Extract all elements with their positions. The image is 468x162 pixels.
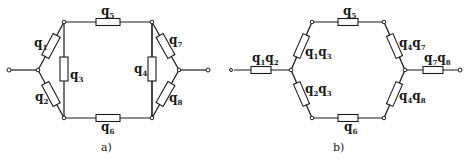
label-a-q8: q8 <box>169 91 182 107</box>
node-a-top-right <box>150 20 154 24</box>
resistor-a-q4 <box>148 57 156 81</box>
terminal-b-right <box>458 68 462 72</box>
label-b-q4q8: q4q8 <box>399 89 426 105</box>
node-b-top-left <box>310 20 314 24</box>
node-a-top-left <box>62 20 66 24</box>
label-a-q7: q7 <box>169 33 182 49</box>
diagram-a: q1 q2 q3 q4 q5 q6 q7 q8 a) <box>7 4 233 154</box>
label-b-q7q8: q7q8 <box>424 51 451 67</box>
label-b-q5: q5 <box>343 4 356 20</box>
stray-dot <box>230 69 233 72</box>
resistor-b-q7q8 <box>423 67 443 74</box>
node-b-left-junction <box>289 68 293 72</box>
caption-b: b) <box>333 141 344 154</box>
terminal-a-right <box>206 68 210 72</box>
terminal-a-left <box>7 68 11 72</box>
node-b-bottom-right <box>382 116 386 120</box>
label-b-q1q2: q1q2 <box>252 51 279 67</box>
resistor-a-q5 <box>96 19 120 26</box>
node-b-right-junction <box>403 68 407 72</box>
label-a-q3: q3 <box>70 68 83 84</box>
label-b-q1q3: q1q3 <box>305 45 332 61</box>
node-b-top-right <box>382 20 386 24</box>
label-a-q6: q6 <box>101 120 114 136</box>
node-a-bottom-right <box>150 116 154 120</box>
node-a-left-junction <box>36 68 40 72</box>
node-a-right-junction <box>177 68 181 72</box>
label-a-q5: q5 <box>101 4 114 20</box>
resistor-a-q3 <box>60 57 68 81</box>
diagram-b: q1q2 q1q3 q2q3 q5 q6 q4q7 q4q8 q7q8 b) <box>234 4 462 154</box>
node-a-bottom-left <box>62 116 66 120</box>
node-b-bottom-left <box>310 116 314 120</box>
label-b-q6: q6 <box>344 120 357 136</box>
label-b-q4q7: q4q7 <box>399 36 426 52</box>
resistor-b-q1q2 <box>251 67 271 74</box>
caption-a: a) <box>101 141 112 154</box>
label-a-q1: q1 <box>34 36 47 52</box>
label-b-q2q3: q2q3 <box>305 82 332 98</box>
label-a-q4: q4 <box>134 62 147 78</box>
circuit-diagrams: q1 q2 q3 q4 q5 q6 q7 q8 a) <box>0 0 468 162</box>
